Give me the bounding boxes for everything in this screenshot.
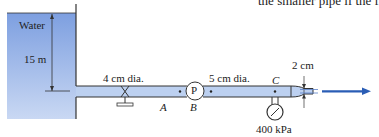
point-a-dot <box>179 90 181 92</box>
point-a-label: A <box>160 101 167 113</box>
point-b-dot <box>210 90 212 92</box>
height-label: 15 m <box>24 53 46 65</box>
point-b-label: B <box>190 101 197 113</box>
nozzle-diameter-label: 2 cm <box>292 59 314 71</box>
pipe-5cm-label: 5 cm dia. <box>209 72 250 84</box>
pipe-5cm <box>203 86 291 97</box>
point-c-dot <box>274 90 276 92</box>
gauge-pressure-label: 400 kPa <box>256 123 292 135</box>
pipe-4cm-label: 4 cm dia. <box>103 72 144 84</box>
water-label: Water <box>19 19 45 31</box>
pump-label: P <box>191 84 197 96</box>
pipe-4cm <box>76 86 186 97</box>
nozzle <box>291 86 313 97</box>
arrow-right-icon <box>362 88 371 96</box>
point-c-label: C <box>272 74 279 86</box>
